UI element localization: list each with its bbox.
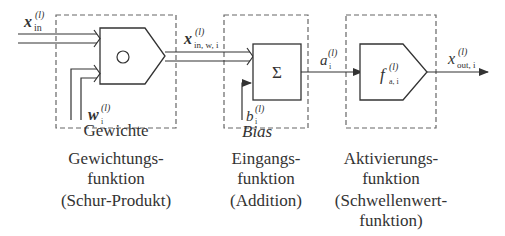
svg-text:(l): (l) [328, 47, 338, 59]
activation-block [360, 44, 427, 100]
weighting-function-caption: Gewichtungs- funktion (Schur-Produkt) [61, 149, 171, 210]
svg-text:Eingangs-: Eingangs- [232, 149, 301, 168]
summation-symbol: Σ [272, 63, 282, 82]
svg-text:out, i: out, i [457, 60, 476, 70]
svg-text:in, w, i: in, w, i [194, 40, 219, 50]
input-function-caption: Eingangs- funktion (Addition) [230, 149, 302, 210]
schur-product-block [100, 28, 165, 84]
svg-text:funktion): funktion) [359, 211, 422, 230]
svg-text:x: x [23, 13, 32, 30]
svg-text:a, i: a, i [389, 77, 400, 86]
activation-function-caption: Aktivierungs- funktion (Schwellenwert- f… [335, 149, 448, 230]
svg-text:i: i [329, 62, 332, 71]
svg-text:a: a [320, 52, 328, 68]
svg-text:(l): (l) [195, 26, 205, 38]
svg-text:(l): (l) [35, 9, 45, 21]
neuron-diagram: Σ x (l) in x (l) in, w, i w (l) i Gewich… [0, 0, 505, 236]
svg-text:(l): (l) [101, 102, 111, 114]
svg-text:(Addition): (Addition) [230, 191, 302, 210]
svg-text:(Schur-Produkt): (Schur-Produkt) [61, 191, 171, 210]
weights-label: Gewichte [83, 121, 148, 140]
weighted-signal-label: x (l) in, w, i [183, 26, 219, 50]
svg-text:x: x [447, 50, 455, 67]
svg-text:in: in [34, 22, 42, 33]
input-double-arrowhead [94, 30, 100, 47]
svg-text:funktion: funktion [362, 169, 420, 188]
svg-text:Aktivierungs-: Aktivierungs- [344, 149, 439, 168]
svg-text:funktion: funktion [87, 169, 145, 188]
output-signal-label: x (l) out, i [447, 46, 476, 70]
svg-text:funktion: funktion [237, 169, 295, 188]
input-signal-label: x (l) in [23, 9, 45, 33]
svg-text:(Schwellenwert-: (Schwellenwert- [335, 191, 448, 210]
weight-double-arrowhead [94, 65, 100, 82]
weighted-double-arrowhead [247, 48, 253, 65]
svg-text:(l): (l) [458, 46, 468, 58]
svg-text:(l): (l) [389, 61, 399, 73]
svg-text:(l): (l) [255, 103, 265, 115]
svg-text:x: x [183, 30, 192, 47]
bias-label: Bias [242, 122, 273, 141]
svg-text:Gewichtungs-: Gewichtungs- [68, 149, 164, 168]
activation-signal-label: a (l) i [320, 47, 338, 71]
